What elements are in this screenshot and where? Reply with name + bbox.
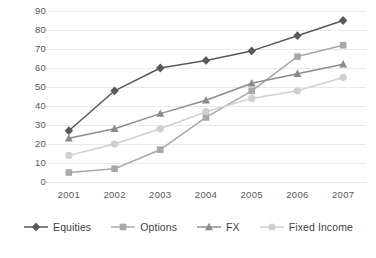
- plot-area: [46, 11, 366, 182]
- legend-label: Fixed Income: [289, 221, 353, 233]
- y-tick-label: 30: [16, 120, 46, 130]
- y-tick-label: 40: [16, 101, 46, 111]
- y-tick-label: 70: [16, 44, 46, 54]
- data-point-marker: [339, 60, 347, 67]
- y-tick-label: 80: [16, 25, 46, 35]
- data-point-marker: [202, 108, 209, 115]
- legend-swatch-square-icon: [110, 221, 136, 233]
- data-point-marker: [248, 47, 256, 56]
- x-tick-label: 2006: [286, 189, 308, 200]
- data-point-marker: [157, 146, 164, 153]
- x-tick-label: 2001: [58, 189, 80, 200]
- legend-item-fixed-income[interactable]: Fixed Income: [259, 221, 353, 233]
- y-tick-label: 90: [16, 6, 46, 16]
- line-chart: 0102030405060708090 20012002200320042005…: [0, 0, 376, 258]
- legend-item-options[interactable]: Options: [110, 221, 177, 233]
- legend-swatch-circle-icon: [259, 221, 285, 233]
- data-point-marker: [339, 16, 347, 25]
- legend-label: FX: [226, 221, 240, 233]
- x-tick-label: 2005: [241, 189, 263, 200]
- x-tick-label: 2004: [195, 189, 217, 200]
- y-tick-label: 10: [16, 158, 46, 168]
- y-tick-label: 50: [16, 82, 46, 92]
- data-point-marker: [66, 169, 73, 176]
- data-point-marker: [294, 87, 301, 94]
- series-fx: [65, 60, 347, 142]
- legend-item-fx[interactable]: FX: [196, 221, 240, 233]
- data-point-marker: [156, 64, 164, 73]
- data-point-marker: [340, 74, 347, 81]
- data-point-marker: [293, 31, 301, 40]
- data-point-marker: [65, 152, 72, 159]
- data-point-marker: [120, 224, 127, 231]
- legend-swatch-triangle-icon: [196, 221, 222, 233]
- legend-swatch-diamond-icon: [23, 221, 49, 233]
- data-point-marker: [157, 125, 164, 132]
- x-tick-label: 2007: [332, 189, 354, 200]
- y-tick-label: 60: [16, 63, 46, 73]
- series-layer: [46, 11, 366, 182]
- chart-legend: EquitiesOptionsFXFixed Income: [0, 221, 376, 233]
- data-point-marker: [202, 56, 210, 65]
- x-tick-label: 2003: [149, 189, 171, 200]
- x-axis-ticks: 2001200220032004200520062007: [46, 189, 366, 205]
- legend-item-equities[interactable]: Equities: [23, 221, 91, 233]
- data-point-marker: [268, 223, 275, 230]
- data-point-marker: [32, 223, 40, 232]
- data-point-marker: [340, 42, 347, 49]
- legend-label: Equities: [53, 221, 91, 233]
- data-point-marker: [111, 140, 118, 147]
- data-point-marker: [248, 88, 255, 95]
- y-tick-label: 0: [16, 177, 46, 187]
- gridline-0: [46, 182, 366, 183]
- data-point-marker: [294, 53, 301, 60]
- legend-label: Options: [140, 221, 177, 233]
- data-point-marker: [111, 165, 118, 172]
- y-tick-label: 20: [16, 139, 46, 149]
- x-tick-label: 2002: [103, 189, 125, 200]
- data-point-marker: [248, 95, 255, 102]
